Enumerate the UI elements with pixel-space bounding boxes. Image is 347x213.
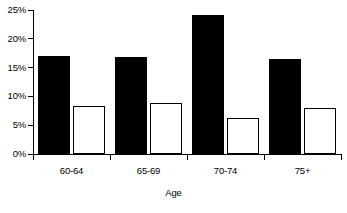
y-axis-tick-label: 20%: [8, 34, 26, 44]
bar-65-69-series-2: [150, 103, 182, 154]
y-axis-tick-label: 5%: [13, 120, 26, 130]
bar-70-74-series-1: [192, 15, 224, 154]
y-axis-tick-label: 10%: [8, 91, 26, 101]
x-axis-tick-mark: [110, 155, 111, 160]
x-axis-title: Age: [0, 188, 347, 198]
bar-75plus-series-2: [304, 108, 336, 154]
bar-60-64-series-2: [73, 106, 105, 154]
x-axis-tick-mark: [264, 155, 265, 160]
bar-chart: 0%5%10%15%20%25% 60-6465-6970-7475+ Age: [0, 0, 347, 213]
x-axis-category-label: 60-64: [33, 166, 110, 176]
y-axis-tick-label: 25%: [8, 5, 26, 15]
x-axis-tick-mark: [341, 155, 342, 160]
x-axis-tick-mark: [33, 155, 34, 160]
y-axis-tick-label: 0%: [13, 149, 26, 159]
x-axis-category-label: 70-74: [187, 166, 264, 176]
bar-65-69-series-1: [115, 57, 147, 154]
plot-area: [33, 10, 341, 154]
x-axis-tick-mark: [187, 155, 188, 160]
y-axis-tick-label: 15%: [8, 63, 26, 73]
bar-60-64-series-1: [38, 56, 70, 154]
x-axis-category-label: 75+: [264, 166, 341, 176]
bar-75plus-series-1: [269, 59, 301, 154]
bar-70-74-series-2: [227, 118, 259, 154]
x-axis-category-label: 65-69: [110, 166, 187, 176]
